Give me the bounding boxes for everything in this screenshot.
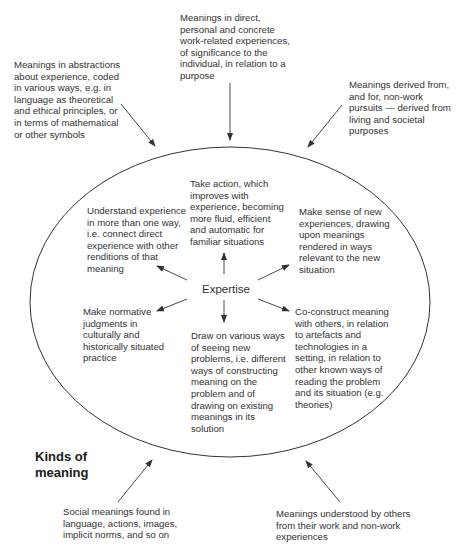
meaning-non-work: Meanings derived from, and for, non-work… xyxy=(349,79,451,137)
capability-normative: Make normative judgments in culturally a… xyxy=(83,306,164,364)
arrow-to-co-construct xyxy=(258,299,289,311)
expertise-label: Expertise xyxy=(202,283,250,295)
meaning-direct: Meanings in direct, personal and concret… xyxy=(180,12,290,82)
meaning-abstractions: Meanings in abstractions about experienc… xyxy=(14,59,120,140)
capability-make-sense: Make sense of new experiences, drawing u… xyxy=(299,206,390,276)
capability-co-construct: Co-construct meaning with others, in rel… xyxy=(295,306,389,410)
capability-understand: Understand experience in more than one w… xyxy=(87,205,186,275)
arrow-social xyxy=(118,460,152,502)
arrow-to-make-sense xyxy=(258,265,289,280)
kinds-of-meaning-label: Kinds of meaning xyxy=(35,449,88,481)
meaning-social: Social meanings found in language, actio… xyxy=(63,506,177,541)
capability-draw-on: Draw on various ways of seeing new probl… xyxy=(191,330,286,434)
kinds-of-meaning-diagram: Meanings in abstractions about experienc… xyxy=(0,0,461,550)
meaning-others: Meanings understood by others from their… xyxy=(276,508,410,543)
arrow-non-work xyxy=(308,105,342,147)
capability-take-action: Take action, which improves with experie… xyxy=(190,178,284,248)
arrow-abstractions xyxy=(121,104,155,146)
arrow-others xyxy=(306,461,340,502)
